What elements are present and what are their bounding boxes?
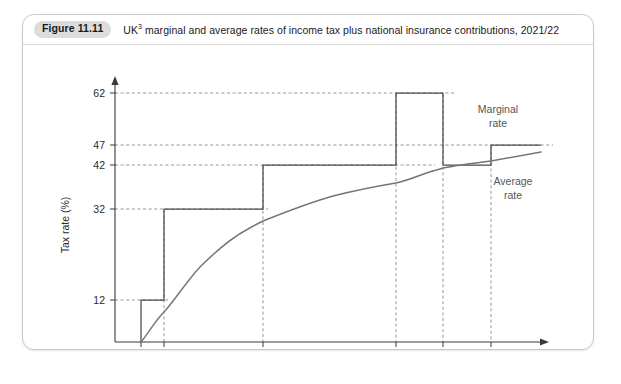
- y-tick-label-12: 12: [93, 294, 105, 306]
- y-tick-label-47: 47: [93, 139, 105, 151]
- average-rate-label-line1: Average: [494, 175, 533, 187]
- y-axis-title: Tax rate (%): [59, 197, 71, 254]
- y-tick-marks: [110, 93, 115, 300]
- figure-number-badge: Figure 11.11: [34, 21, 111, 38]
- y-tick-label-32: 32: [93, 203, 105, 215]
- x-tick-marks: [141, 342, 491, 347]
- marginal-rate-label: Marginal rate: [478, 103, 518, 129]
- average-rate-series: [141, 152, 541, 342]
- average-rate-label: Average rate: [494, 175, 533, 201]
- figure-title: UK3 marginal and average rates of income…: [123, 23, 559, 36]
- tax-rate-chart: 62 47 42 32 12 Tax rate (%) O 9568: [23, 45, 595, 350]
- y-tick-label-42: 42: [93, 159, 105, 171]
- y-axis-arrow: [111, 76, 118, 85]
- y-tick-label-62: 62: [93, 87, 105, 99]
- chart-plot-area: 62 47 42 32 12 Tax rate (%) O 9568: [23, 45, 595, 350]
- average-rate-label-line2: rate: [504, 189, 522, 201]
- marginal-rate-label-line1: Marginal: [478, 103, 518, 115]
- marginal-rate-label-line2: rate: [489, 117, 507, 129]
- figure-card: Figure 11.11 UK3 marginal and average ra…: [22, 14, 594, 350]
- axes: [111, 76, 549, 346]
- vertical-gridlines: [164, 94, 491, 342]
- horizontal-gridlines: [115, 93, 553, 300]
- figure-title-pre: UK: [123, 24, 138, 36]
- figure-title-post: marginal and average rates of income tax…: [142, 24, 559, 36]
- marginal-rate-series: [141, 93, 541, 342]
- x-axis-arrow: [540, 338, 549, 345]
- figure-header: Figure 11.11 UK3 marginal and average ra…: [23, 15, 593, 45]
- y-tick-labels: 62 47 42 32 12: [93, 87, 105, 306]
